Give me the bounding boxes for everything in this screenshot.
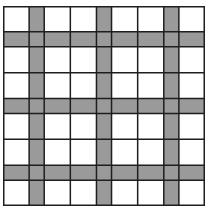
shaded-cell	[29, 113, 44, 139]
white-cell	[44, 73, 70, 99]
shaded-cell	[164, 165, 179, 180]
white-cell	[138, 139, 164, 165]
shaded-cell	[3, 99, 29, 114]
white-cell	[112, 139, 138, 165]
white-cell	[70, 73, 96, 99]
white-cell	[44, 180, 70, 206]
shaded-cell	[164, 113, 179, 139]
white-cell	[70, 6, 96, 32]
shaded-cell	[70, 99, 96, 114]
white-cell	[179, 139, 205, 165]
shaded-cell	[96, 165, 111, 180]
shaded-cell	[29, 180, 44, 206]
shaded-cell	[138, 165, 164, 180]
white-cell	[112, 180, 138, 206]
shaded-cell	[29, 73, 44, 99]
white-cell	[179, 47, 205, 73]
shaded-cell	[29, 139, 44, 165]
white-cell	[179, 6, 205, 32]
grid-svg	[3, 6, 205, 206]
shaded-cell	[29, 6, 44, 32]
white-cell	[70, 113, 96, 139]
shaded-cell	[138, 32, 164, 47]
shaded-cell	[164, 47, 179, 73]
white-cell	[112, 47, 138, 73]
white-cell	[112, 73, 138, 99]
shaded-cell	[112, 32, 138, 47]
white-cell	[44, 6, 70, 32]
shaded-cell	[96, 6, 111, 32]
white-cell	[112, 6, 138, 32]
shaded-cell	[29, 47, 44, 73]
white-cell	[138, 113, 164, 139]
white-cell	[179, 73, 205, 99]
shaded-cell	[164, 6, 179, 32]
white-cell	[112, 113, 138, 139]
white-cell	[44, 47, 70, 73]
white-cell	[3, 180, 29, 206]
shaded-cell	[70, 165, 96, 180]
shaded-cell	[96, 113, 111, 139]
shaded-cell	[96, 180, 111, 206]
white-cell	[179, 180, 205, 206]
shaded-cell	[164, 99, 179, 114]
white-cell	[138, 73, 164, 99]
white-cell	[138, 180, 164, 206]
shaded-cell	[164, 73, 179, 99]
white-cell	[3, 6, 29, 32]
shaded-cell	[3, 165, 29, 180]
shaded-cell	[96, 99, 111, 114]
white-cell	[3, 139, 29, 165]
shaded-cell	[138, 99, 164, 114]
white-cell	[44, 113, 70, 139]
white-cell	[70, 180, 96, 206]
shaded-cell	[29, 165, 44, 180]
shaded-cell	[112, 165, 138, 180]
shaded-cell	[179, 165, 205, 180]
white-cell	[3, 113, 29, 139]
shaded-cell	[29, 32, 44, 47]
shaded-cell	[96, 139, 111, 165]
white-cell	[138, 6, 164, 32]
white-cell	[138, 47, 164, 73]
white-cell	[44, 139, 70, 165]
shaded-cell	[164, 139, 179, 165]
white-cell	[179, 113, 205, 139]
shaded-cell	[44, 32, 70, 47]
shaded-cell	[164, 32, 179, 47]
shaded-cell	[96, 32, 111, 47]
white-cell	[70, 139, 96, 165]
shaded-cell	[164, 180, 179, 206]
white-cell	[3, 47, 29, 73]
grid-diagram	[3, 6, 205, 206]
shaded-cell	[70, 32, 96, 47]
white-cell	[3, 73, 29, 99]
shaded-cell	[179, 99, 205, 114]
shaded-cell	[3, 32, 29, 47]
shaded-cell	[44, 99, 70, 114]
shaded-cell	[96, 47, 111, 73]
shaded-cell	[112, 99, 138, 114]
shaded-cell	[179, 32, 205, 47]
white-cell	[70, 47, 96, 73]
shaded-cell	[96, 73, 111, 99]
shaded-cell	[44, 165, 70, 180]
shaded-cell	[29, 99, 44, 114]
